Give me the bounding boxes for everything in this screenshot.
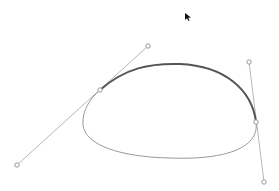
anchor-point-right[interactable]	[254, 120, 258, 124]
handle-point-left-out[interactable]	[146, 44, 150, 48]
handle-point-right-in[interactable]	[247, 60, 251, 64]
anchor-point-left[interactable]	[98, 88, 102, 92]
bezier-canvas[interactable]	[0, 0, 279, 191]
handle-point-left-in[interactable]	[15, 163, 19, 167]
path-segment-lower[interactable]	[83, 90, 256, 158]
handle-line-left	[17, 46, 148, 165]
path-segment-selected[interactable]	[100, 64, 256, 122]
arrow-pointer-icon	[185, 13, 191, 21]
handle-point-right-out[interactable]	[262, 180, 266, 184]
